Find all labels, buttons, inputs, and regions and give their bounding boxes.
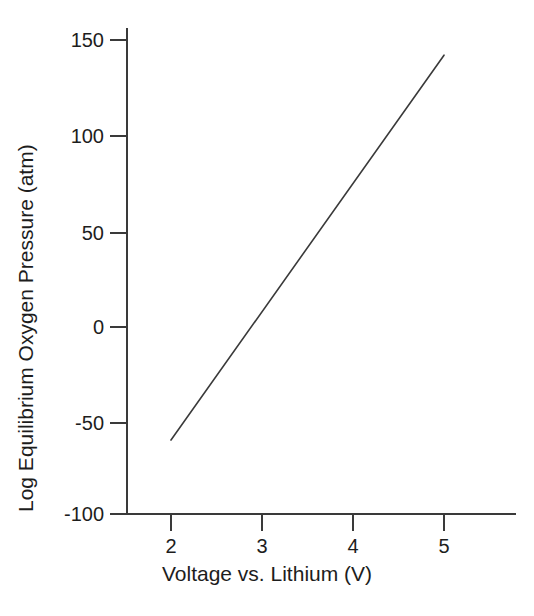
y-tick-label-50: 50 <box>82 223 104 243</box>
chart-figure: 150 100 50 0 -50 -100 2 3 4 5 Voltage vs… <box>0 0 534 616</box>
x-axis-ticks <box>171 514 444 531</box>
x-tick-label-5: 5 <box>424 536 464 556</box>
y-tick-label-150: 150 <box>71 30 104 50</box>
x-tick-label-3: 3 <box>242 536 282 556</box>
x-axis-title: Voltage vs. Lithium (V) <box>0 562 534 586</box>
data-series-line <box>171 55 444 440</box>
y-axis-title-holder: Log Equilibrium Oxygen Pressure (atm) <box>14 0 48 534</box>
y-tick-label-100: 100 <box>71 126 104 146</box>
y-axis-ticks <box>110 40 127 514</box>
x-tick-label-4: 4 <box>333 536 373 556</box>
y-tick-label--100: -100 <box>64 504 104 524</box>
y-axis-title: Log Equilibrium Oxygen Pressure (atm) <box>14 144 38 512</box>
y-tick-label--50: -50 <box>75 413 104 433</box>
y-tick-label-0: 0 <box>93 317 104 337</box>
x-tick-label-2: 2 <box>151 536 191 556</box>
